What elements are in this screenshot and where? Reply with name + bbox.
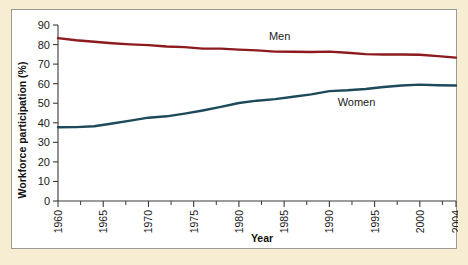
x-axis-ticks: 1960196519701975198019851990199520002004 (52, 201, 458, 233)
series-line-women (58, 85, 456, 128)
chart-plot-area: 0102030405060708090 19601965197019751980… (12, 10, 458, 250)
y-tick-label: 70 (38, 58, 50, 70)
x-tick-label: 1990 (323, 210, 335, 234)
x-tick-label: 1965 (97, 210, 109, 234)
y-tick-label: 20 (38, 156, 50, 168)
y-tick-label: 80 (38, 39, 50, 51)
y-tick-label: 10 (38, 175, 50, 187)
y-tick-label: 90 (38, 19, 50, 31)
x-tick-label: 1985 (278, 210, 290, 234)
y-axis-ticks: 0102030405060708090 (38, 19, 58, 207)
x-axis-title: Year (251, 232, 273, 244)
y-tick-label: 0 (44, 195, 50, 207)
series-label-women: Women (338, 96, 376, 108)
series-line-men (58, 38, 456, 58)
x-tick-label: 1960 (52, 210, 64, 234)
x-tick-label: 1980 (233, 210, 245, 234)
y-tick-label: 30 (38, 136, 50, 148)
line-chart-svg: 0102030405060708090 19601965197019751980… (12, 10, 458, 250)
data-series-group (58, 38, 456, 127)
series-annotations: MenWomen (269, 30, 375, 108)
x-tick-label: 1975 (188, 210, 200, 234)
series-label-men: Men (269, 30, 290, 42)
y-tick-label: 40 (38, 117, 50, 129)
y-axis-title: Workforce participation (%) (16, 62, 28, 199)
chart-card: 0102030405060708090 19601965197019751980… (11, 9, 457, 249)
x-tick-label: 1995 (369, 210, 381, 234)
y-tick-label: 50 (38, 97, 50, 109)
y-tick-label: 60 (38, 78, 50, 90)
x-tick-label: 1970 (142, 210, 154, 234)
x-tick-label: 2000 (414, 210, 426, 234)
x-tick-label: 2004 (450, 210, 458, 234)
